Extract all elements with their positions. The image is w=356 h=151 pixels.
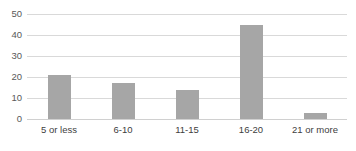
- y-tick-label: 40: [0, 30, 22, 40]
- x-label-21-or-more: 21 or more: [283, 124, 347, 135]
- y-tick-label: 10: [0, 93, 22, 103]
- x-label-16-20: 16-20: [219, 124, 283, 135]
- y-tick-label: 0: [0, 114, 22, 124]
- bar-slot: [283, 14, 347, 119]
- bar-slot: [91, 14, 155, 119]
- x-axis-labels: 5 or less 6-10 11-15 16-20 21 or more: [27, 124, 347, 135]
- x-label-11-15: 11-15: [155, 124, 219, 135]
- bar-21-or-more[interactable]: [304, 113, 327, 119]
- x-label-6-10: 6-10: [91, 124, 155, 135]
- y-tick-label: 30: [0, 51, 22, 61]
- x-label-5-or-less: 5 or less: [27, 124, 91, 135]
- bar-11-15[interactable]: [176, 90, 199, 119]
- y-tick-label: 20: [0, 72, 22, 82]
- bar-slot: [27, 14, 91, 119]
- x-axis-line: [27, 119, 347, 120]
- bar-5-or-less[interactable]: [48, 75, 71, 119]
- y-tick-label: 50: [0, 9, 22, 19]
- bar-chart: 50 40 30 20 10 0 5 or less 6-10 11-15 16…: [0, 0, 356, 151]
- bar-slot: [155, 14, 219, 119]
- bar-series: [27, 14, 347, 119]
- bar-16-20[interactable]: [240, 25, 263, 120]
- bar-slot: [219, 14, 283, 119]
- bar-6-10[interactable]: [112, 83, 135, 119]
